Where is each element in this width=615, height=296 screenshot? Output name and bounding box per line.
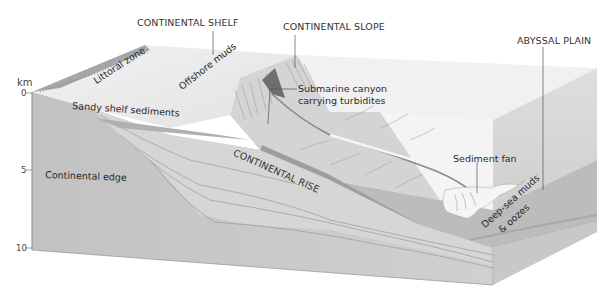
continental-slope-heading: CONTINENTAL SLOPE xyxy=(283,22,385,32)
depth-scale xyxy=(26,92,32,250)
continental-shelf-heading: CONTINENTAL SHELF xyxy=(137,18,239,28)
submarine-canyon-label-line1: Submarine canyon xyxy=(298,84,387,94)
scale-tick-5: 5 xyxy=(21,166,26,175)
sediment-fan-label: Sediment fan xyxy=(453,154,517,164)
submarine-canyon-label-line2: carrying turbidites xyxy=(298,96,386,106)
scale-unit-label: km xyxy=(17,78,33,88)
scale-tick-10: 10 xyxy=(16,244,27,253)
abyssal-plain-heading: ABYSSAL PLAIN xyxy=(517,36,591,46)
scale-tick-0: 0 xyxy=(21,89,26,98)
